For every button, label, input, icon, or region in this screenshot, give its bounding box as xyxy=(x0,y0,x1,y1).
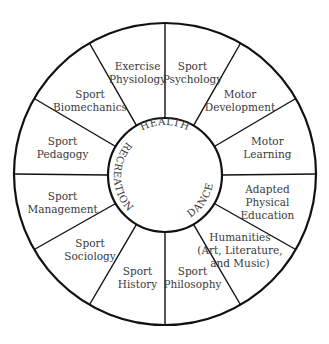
segment-label: MotorDevelopment xyxy=(205,88,276,113)
discipline-wheel-diagram: HEALTH RECREATION DANCE SportPsychologyM… xyxy=(0,0,329,344)
segment-divider xyxy=(14,174,108,175)
segment-divider xyxy=(222,174,316,175)
segment-label: MotorLearning xyxy=(243,135,291,160)
inner-circle xyxy=(108,118,222,232)
segment-label: Humanities(Art, Literature,and Music) xyxy=(197,231,282,269)
segment-label: SportBiomechanics xyxy=(53,88,127,113)
segment-label: SportPsychology xyxy=(163,60,222,85)
segment-label: AdaptedPhysicalEducation xyxy=(240,183,294,221)
segment-label: SportPedagogy xyxy=(37,135,89,160)
segment-label: SportSociology xyxy=(64,237,115,262)
segment-label: SportHistory xyxy=(118,265,157,290)
segment-label: SportManagement xyxy=(28,190,99,215)
segment-label: ExercisePhysiology xyxy=(109,60,166,85)
